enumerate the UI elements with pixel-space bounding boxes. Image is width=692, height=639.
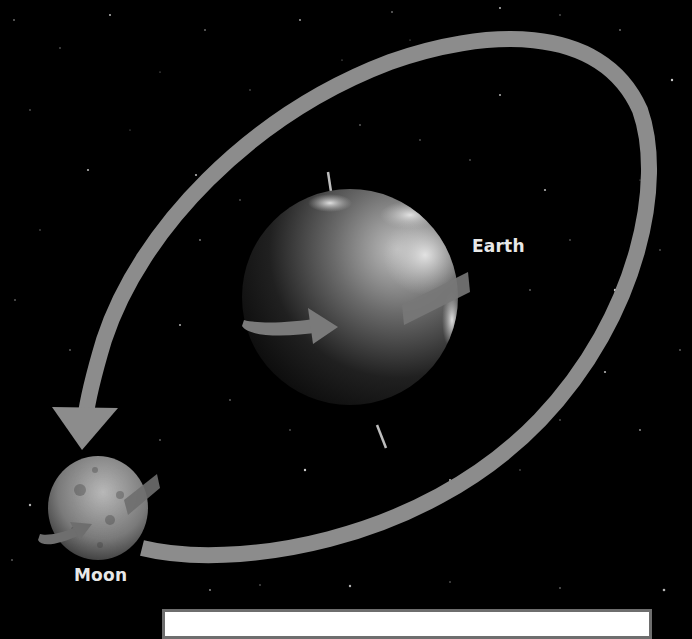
earth <box>242 172 470 448</box>
earth-label: Earth <box>472 236 525 256</box>
earth-axis-bottom <box>377 425 386 448</box>
moon <box>38 456 160 560</box>
moon-label: Moon <box>74 565 127 585</box>
caption-box <box>162 609 652 639</box>
